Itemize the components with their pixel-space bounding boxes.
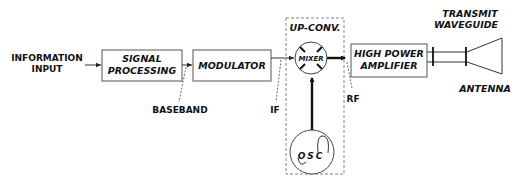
baseband-label: BASEBAND [152,105,207,115]
mixer-label: MIXER [298,55,323,63]
antenna-label: ANTENNA [458,83,511,94]
antenna-horn [467,38,502,74]
svg-text:HIGH POWER: HIGH POWER [354,48,424,59]
information-input-label: INFORMATION INPUT [11,53,83,74]
svg-text:TRANSMIT: TRANSMIT [442,8,499,19]
mixer-block: MIXER [295,42,327,74]
svg-text:WAVEGUIDE: WAVEGUIDE [434,19,499,30]
svg-text:INFORMATION: INFORMATION [11,53,83,63]
signal-processing-block: SIGNAL PROCESSING [102,50,182,81]
osc-label: OSC [298,151,325,161]
transmit-waveguide-label: TRANSMIT WAVEGUIDE [434,8,499,30]
if-label: IF [270,105,280,115]
rf-label: RF [346,94,359,104]
svg-text:SIGNAL: SIGNAL [122,53,162,64]
modulator-block: MODULATOR [193,50,271,81]
oscillator-block: OSC [290,130,334,174]
svg-text:AMPLIFIER: AMPLIFIER [359,60,417,71]
svg-text:PROCESSING: PROCESSING [108,65,177,76]
svg-text:MODULATOR: MODULATOR [198,60,266,71]
high-power-amplifier-block: HIGH POWER AMPLIFIER [351,44,427,77]
up-converter-label: UP-CONV. [290,22,341,33]
transmit-waveguide [427,47,467,66]
svg-text:INPUT: INPUT [32,64,64,74]
transmitter-block-diagram: INFORMATION INPUT SIGNAL PROCESSING BASE… [0,0,516,184]
if-leader [276,60,281,102]
